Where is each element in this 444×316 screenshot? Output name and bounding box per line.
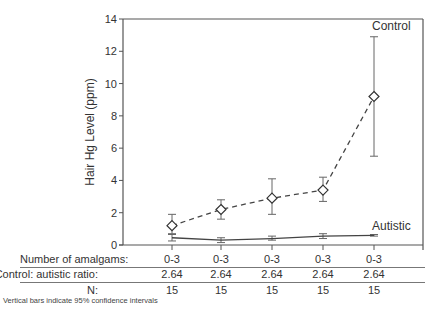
y-tick-label: 4 — [111, 174, 117, 186]
diamond-marker — [369, 91, 379, 101]
table-cell: 15 — [252, 284, 292, 296]
table-cell: 2.64 — [354, 268, 394, 280]
y-tick-label: 6 — [111, 142, 117, 154]
table-cell: 15 — [303, 284, 343, 296]
table-cell: 0-3 — [354, 253, 394, 265]
table-cell: 0-3 — [152, 253, 192, 265]
table-cell: 0-3 — [303, 253, 343, 265]
y-axis-label: Hair Hg Level (ppm) — [83, 78, 97, 185]
table-cell: 2.64 — [201, 268, 241, 280]
diamond-marker — [267, 193, 277, 203]
y-tick-label: 12 — [105, 45, 117, 57]
footnote: Vertical bars indicate 95% confidence in… — [3, 296, 158, 305]
table-cell: 0-3 — [252, 253, 292, 265]
table-cell: 15 — [152, 284, 192, 296]
table-separator — [20, 282, 425, 283]
y-tick-label: 10 — [105, 78, 117, 90]
diamond-marker — [167, 221, 177, 231]
table-row-label: N: — [87, 284, 98, 296]
table-cell: 2.64 — [152, 268, 192, 280]
series-layer — [167, 37, 379, 243]
table-separator — [20, 267, 425, 268]
table-cell: 15 — [354, 284, 394, 296]
control-line — [172, 96, 374, 225]
y-tick-label: 2 — [111, 207, 117, 219]
table-cell: 2.64 — [303, 268, 343, 280]
diamond-marker — [318, 185, 328, 195]
control-series-label: Control — [372, 19, 411, 33]
table-row-label: Control: autistic ratio: — [0, 268, 98, 280]
y-tick-label: 0 — [111, 239, 117, 251]
y-tick-label: 14 — [105, 13, 117, 25]
y-tick-label: 8 — [111, 110, 117, 122]
table-cell: 2.64 — [252, 268, 292, 280]
axes: 02468101214 — [105, 13, 423, 251]
table-cell: 15 — [201, 284, 241, 296]
diamond-marker — [216, 204, 226, 214]
autistic-series-label: Autistic — [372, 219, 411, 233]
table-row-label: Number of amalgams: — [20, 253, 128, 265]
table-cell: 0-3 — [201, 253, 241, 265]
